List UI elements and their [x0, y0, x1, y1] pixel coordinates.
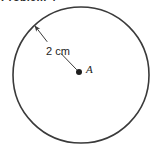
center-point-dot [76, 69, 82, 75]
radius-measure-label: 2 cm [46, 45, 70, 58]
circle-outline [13, 7, 149, 143]
circle-radius-figure: Problem 4 2 cm A [0, 0, 160, 152]
radius-arrow-line-upper [35, 26, 47, 42]
center-point-label: A [86, 63, 93, 76]
diagram-canvas [0, 0, 160, 152]
